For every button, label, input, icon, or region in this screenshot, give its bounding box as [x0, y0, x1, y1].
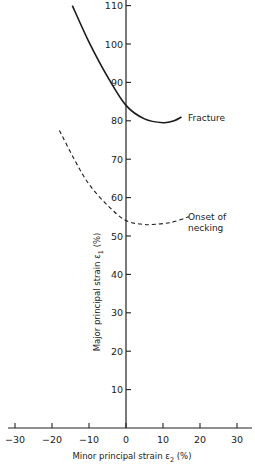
x-tick-label: 20	[194, 434, 206, 445]
necking-annotation-line2: necking	[188, 223, 223, 233]
y-tick-label: 110	[105, 0, 123, 11]
x-tick-label: 0	[123, 434, 129, 445]
onset-of-necking-curve	[59, 130, 189, 224]
y-axis-title: Major principal strain ε1 (%)	[92, 233, 105, 352]
x-tick-label: −10	[79, 434, 99, 445]
fracture-annotation: Fracture	[188, 113, 225, 123]
y-tick-label: 80	[111, 115, 123, 126]
x-tick-label: 30	[231, 434, 243, 445]
y-tick-label: 40	[111, 269, 123, 280]
y-tick-label: 50	[111, 231, 123, 242]
x-axis-title: Minor principal strain ε2 (%)	[73, 451, 192, 464]
y-tick-label: 100	[105, 39, 123, 50]
y-axis-ticks: 102030405060708090100110	[105, 0, 131, 395]
y-tick-label: 70	[111, 154, 123, 165]
x-axis-ticks: −30−20−100102030	[5, 423, 243, 445]
x-tick-label: −20	[42, 434, 62, 445]
x-tick-label: 10	[157, 434, 169, 445]
y-tick-label: 20	[111, 346, 123, 357]
y-tick-label: 10	[111, 384, 123, 395]
necking-annotation-line1: Onset of	[188, 212, 227, 222]
fracture-curve	[72, 6, 181, 123]
y-tick-label: 30	[111, 307, 123, 318]
forming-limit-chart: −30−20−100102030 10203040506070809010011…	[0, 0, 255, 469]
x-tick-label: −30	[5, 434, 25, 445]
y-tick-label: 60	[111, 192, 123, 203]
